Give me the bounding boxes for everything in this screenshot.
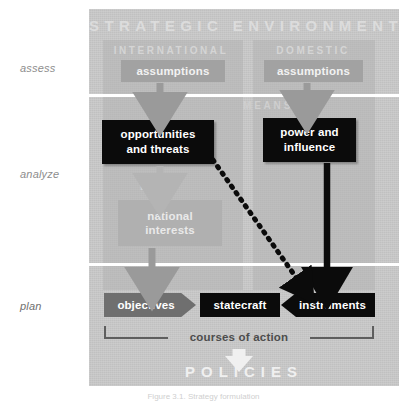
node-label-line2: and threats — [126, 143, 189, 155]
node-instruments: instruments — [281, 293, 375, 317]
node-label-line2: interests — [145, 224, 195, 236]
strategy-formulation-diagram: STRATEGIC ENVIRONMENT INTERNATIONAL DOME… — [0, 0, 407, 405]
band-divider-assess-analyze — [0, 94, 407, 97]
stage-label-column — [0, 0, 89, 405]
node-label: instruments — [299, 299, 366, 311]
node-objectives: objectives — [104, 293, 196, 317]
courses-of-action-label: courses of action — [104, 326, 374, 348]
section-header-ends: ENDS — [140, 181, 179, 192]
stage-label-analyze: analyze — [20, 168, 59, 180]
node-label: objectives — [117, 299, 174, 311]
node-label-line1: national — [147, 210, 193, 222]
node-label: statecraft — [214, 299, 267, 311]
stage-label-assess: assess — [20, 62, 55, 74]
node-label-line1: opportunities — [121, 128, 196, 140]
node-label-line2: influence — [284, 141, 335, 153]
node-label: assumptions — [277, 64, 350, 78]
section-header-means: MEANS — [243, 100, 293, 111]
courses-of-action-bracket: courses of action — [104, 326, 374, 348]
column-header-domestic: DOMESTIC — [253, 45, 373, 56]
node-statecraft: statecraft — [200, 293, 280, 317]
column-header-international: INTERNATIONAL — [96, 45, 246, 56]
node-label-line1: power and — [280, 126, 338, 138]
band-divider-analyze-plan — [0, 263, 407, 266]
policies-label: POLICIES — [89, 363, 399, 380]
node-label: assumptions — [136, 64, 209, 78]
stage-label-plan: plan — [20, 300, 42, 312]
node-assumptions-international: assumptions — [121, 60, 225, 82]
node-assumptions-domestic: assumptions — [264, 60, 363, 82]
node-label: power and influence — [280, 125, 338, 155]
node-label: opportunities and threats — [121, 127, 196, 157]
node-label: national interests — [145, 209, 195, 238]
node-national-interests: national interests — [118, 200, 222, 246]
node-power-and-influence: power and influence — [263, 118, 356, 162]
node-opportunities-and-threats: opportunities and threats — [102, 120, 214, 164]
strategic-environment-title: STRATEGIC ENVIRONMENT — [89, 17, 399, 34]
figure-caption: Figure 3.1. Strategy formulation — [0, 392, 407, 401]
